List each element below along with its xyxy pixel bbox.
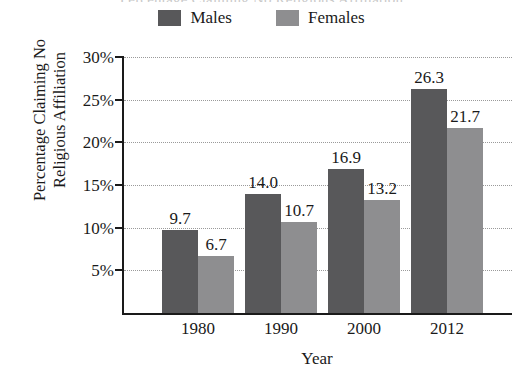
bar-value-label: 26.3 [414,69,444,86]
chart-legend: Males Females [0,9,523,26]
x-axis-line [122,313,512,315]
y-axis-tick [115,141,124,143]
legend-label-males: Males [190,9,232,26]
y-axis-tick-labels: 5%10%15%20%25%30% [52,57,114,315]
chart-title-remnant: Percentage Claiming No Religious Affilia… [0,0,523,2]
bar-value-label: 13.2 [367,180,397,197]
bar-chart-figure: Percentage Claiming No Religious Affilia… [0,0,523,382]
legend-item-females: Females [276,9,365,26]
y-axis-tick-label: 5% [91,262,114,279]
gridline [124,100,512,101]
bar-1980-males[interactable]: 9.7 [162,230,198,313]
bar-value-label: 21.7 [450,108,480,125]
bar-2012-females[interactable]: 21.7 [447,128,483,313]
y-axis-tick [115,227,124,229]
y-axis-tick-label: 20% [83,134,114,151]
y-axis-tick [115,269,124,271]
y-axis-tick [115,184,124,186]
y-axis-tick-label: 10% [83,219,114,236]
legend-swatch-males [158,10,181,26]
x-axis-tick-labels: 1980199020002012 [122,320,512,342]
bar-1990-males[interactable]: 14.0 [245,194,281,313]
x-axis-tick-label: 1980 [181,320,215,337]
bar-2012-males[interactable]: 26.3 [411,89,447,313]
x-axis-title: Year [122,350,512,367]
bar-1980-females[interactable]: 6.7 [198,256,234,313]
legend-item-males: Males [158,9,232,26]
x-axis-tick-label: 2000 [347,320,381,337]
legend-label-females: Females [308,9,365,26]
y-axis-tick-label: 30% [83,49,114,66]
y-axis-tick [115,56,124,58]
x-axis-tick-label: 2012 [430,320,464,337]
y-axis-title-line-1: Percentage Claiming No [30,10,50,230]
y-axis-line [122,57,124,315]
y-axis-tick [115,99,124,101]
y-axis-tick-label: 15% [83,177,114,194]
bar-value-label: 9.7 [169,210,190,227]
y-axis-tick-label: 25% [83,91,114,108]
gridline [124,57,512,58]
bar-value-label: 16.9 [331,149,361,166]
bar-2000-males[interactable]: 16.9 [328,169,364,313]
bar-value-label: 14.0 [248,174,278,191]
bar-1990-females[interactable]: 10.7 [281,222,317,313]
bar-value-label: 6.7 [205,236,226,253]
legend-swatch-females [276,10,299,26]
bar-value-label: 10.7 [284,202,314,219]
x-axis-tick-label: 1990 [264,320,298,337]
plot-area: 9.76.714.010.716.913.226.321.7 [122,57,512,315]
bar-2000-females[interactable]: 13.2 [364,200,400,313]
